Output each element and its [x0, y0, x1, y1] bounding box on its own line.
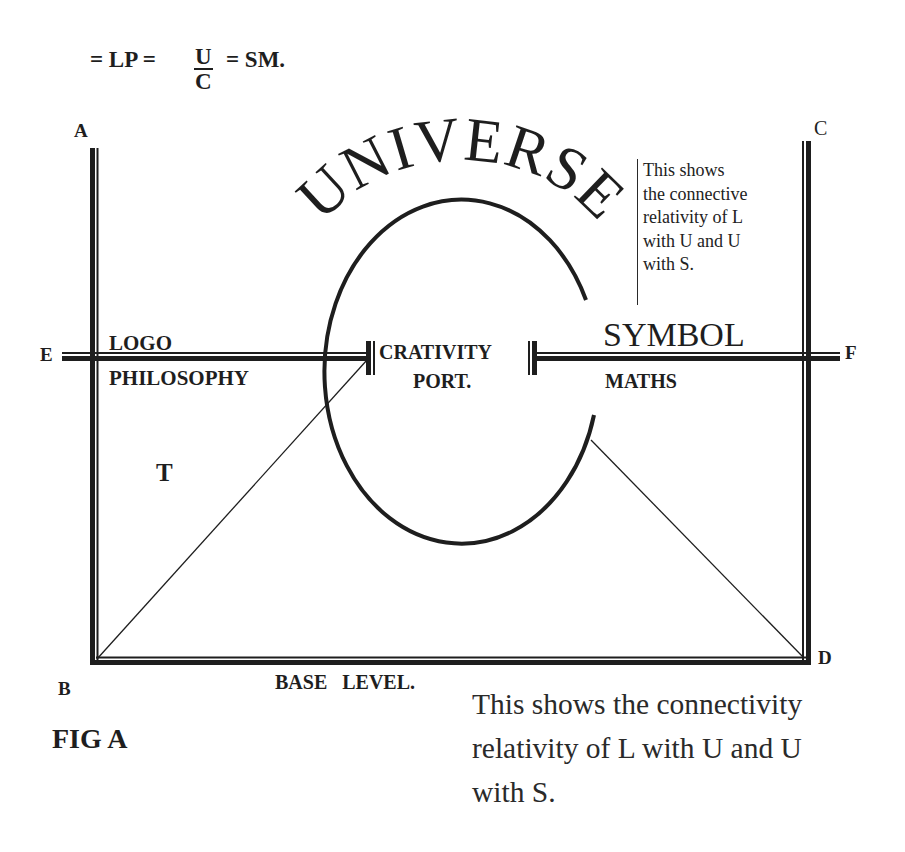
formula-numerator: U: [194, 45, 213, 70]
line-base-b-d: [90, 657, 811, 666]
side-note-line: This shows: [643, 159, 803, 183]
side-note-line: the connective: [643, 183, 803, 207]
base-level-label: BASE LEVEL.: [275, 672, 415, 692]
caption: This shows the connectivity relativity o…: [472, 682, 892, 814]
formula: = LP = U C = SM.: [90, 47, 156, 73]
crativity-label: CRATIVITY: [379, 342, 492, 362]
formula-suffix: = SM.: [226, 47, 285, 73]
point-label-d: D: [818, 648, 832, 667]
formula-denominator: C: [194, 70, 213, 93]
point-label-c: C: [814, 118, 827, 138]
caption-line: This shows the connectivity: [472, 682, 892, 726]
universe-arc-title: UNIVERSE: [284, 104, 639, 232]
crativity-left-bracket: [366, 341, 375, 375]
line-c-d: [802, 141, 811, 664]
side-note: This shows the connective relativity of …: [637, 159, 803, 305]
formula-prefix: = LP =: [90, 47, 156, 72]
caption-line: relativity of L with U and U: [472, 726, 892, 770]
point-label-f: F: [845, 343, 857, 362]
maths-label: MATHS: [605, 371, 677, 391]
line-f-right-segment: [537, 352, 840, 361]
line-e-left-segment: [62, 352, 368, 361]
port-label: PORT.: [413, 371, 471, 391]
point-label-a: A: [74, 121, 88, 140]
point-label-b: B: [58, 679, 71, 698]
side-note-line: relativity of L: [643, 206, 803, 230]
side-note-line: with U and U: [643, 230, 803, 254]
point-label-e: E: [40, 345, 53, 364]
region-label-t: T: [156, 460, 173, 485]
philosophy-label: PHILOSOPHY: [109, 368, 249, 389]
figure-label: FIG A: [52, 725, 127, 753]
diagonal-arc-to-d: [591, 440, 804, 658]
symbol-label: SYMBOL: [603, 318, 745, 352]
line-a-b: [90, 148, 99, 664]
caption-line: with S.: [472, 770, 892, 814]
logo-label: LOGO: [109, 333, 172, 354]
diagonal-b-to-crativity: [97, 360, 367, 659]
side-note-line: with S.: [643, 253, 803, 277]
crativity-right-bracket: [528, 341, 537, 375]
formula-fraction: U C: [194, 45, 213, 93]
